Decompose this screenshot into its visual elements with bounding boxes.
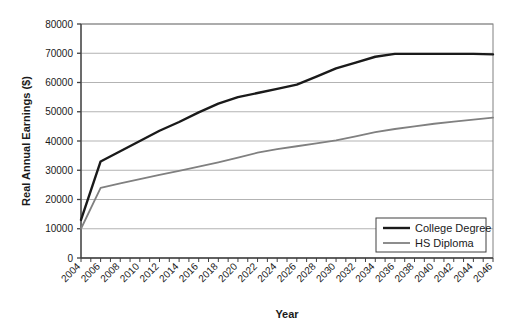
legend-label-hs-diploma: HS Diploma (415, 237, 475, 249)
y-tick-label: 10000 (45, 223, 73, 234)
legend-label-college-degree: College Degree (415, 222, 491, 234)
y-tick-label: 40000 (45, 136, 73, 147)
chart-canvas: 0100002000030000400005000060000700008000… (0, 0, 516, 330)
x-tick-label: 2020 (216, 260, 240, 284)
x-tick-label: 2030 (314, 260, 338, 284)
x-tick-label: 2012 (137, 260, 161, 284)
x-tick-label: 2026 (275, 260, 299, 284)
x-tick-label: 2018 (196, 260, 220, 284)
y-tick-label: 80000 (45, 19, 73, 30)
x-tick-label: 2022 (235, 260, 259, 284)
x-tick-label: 2010 (118, 260, 142, 284)
y-tick-label: 50000 (45, 106, 73, 117)
y-tick-label: 20000 (45, 194, 73, 205)
x-tick-label: 2032 (334, 260, 358, 284)
y-tick-label: 70000 (45, 48, 73, 59)
x-tick-label: 2034 (353, 260, 377, 284)
y-tick-label: 30000 (45, 165, 73, 176)
y-axis-title: Real Annual Earnings ($) (20, 76, 32, 206)
x-axis-title: Year (275, 308, 299, 320)
x-tick-label: 2036 (373, 260, 397, 284)
line-chart: 0100002000030000400005000060000700008000… (0, 0, 516, 330)
x-tick-label: 2044 (451, 260, 475, 284)
x-tick-label: 2046 (471, 260, 495, 284)
x-tick-label: 2024 (255, 260, 279, 284)
x-tick-label: 2042 (432, 260, 456, 284)
x-tick-label: 2040 (412, 260, 436, 284)
x-tick-label: 2016 (177, 260, 201, 284)
x-tick-label: 2038 (392, 260, 416, 284)
x-tick-label: 2008 (98, 260, 122, 284)
x-tick-label: 2004 (59, 260, 83, 284)
x-axis-ticks: 2004200620082010201220142016201820202022… (59, 258, 495, 284)
x-tick-label: 2006 (79, 260, 103, 284)
y-axis-ticks: 0100002000030000400005000060000700008000… (45, 19, 81, 264)
y-tick-label: 60000 (45, 77, 73, 88)
legend: College Degree HS Diploma (376, 218, 491, 252)
x-tick-label: 2028 (294, 260, 318, 284)
x-tick-label: 2014 (157, 260, 181, 284)
